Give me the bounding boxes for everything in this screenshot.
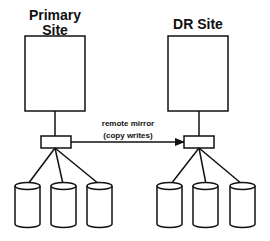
dr-site-label: DR Site [158, 17, 238, 32]
dr-disk-2-icon [193, 183, 218, 228]
primary-disk-3-icon [87, 183, 112, 228]
remote-mirror-diagram: Primary Site DR Site remote mirror (copy… [0, 0, 270, 241]
dr-disk-1-icon [157, 183, 182, 228]
remote-mirror-label-line1: remote mirror [88, 118, 168, 130]
remote-mirror-label: remote mirror (copy writes) [88, 118, 168, 142]
primary-switch-box [41, 136, 71, 148]
dr-server-box [168, 36, 228, 111]
primary-disk-1-icon [15, 183, 40, 228]
dr-switch-box [184, 136, 214, 148]
primary-server-box [25, 36, 85, 111]
remote-mirror-label-line2: (copy writes) [88, 130, 168, 142]
primary-disk-2-icon [51, 183, 76, 228]
primary-site-label: Primary Site [20, 8, 90, 38]
primary-site-label-line1: Primary [20, 8, 90, 23]
primary-switch-to-disk-1-line [28, 148, 55, 184]
primary-site-label-line2: Site [20, 23, 90, 38]
dr-disk-3-icon [230, 183, 255, 228]
dr-site [157, 36, 255, 228]
dr-switch-to-disk-1-line [171, 148, 199, 184]
